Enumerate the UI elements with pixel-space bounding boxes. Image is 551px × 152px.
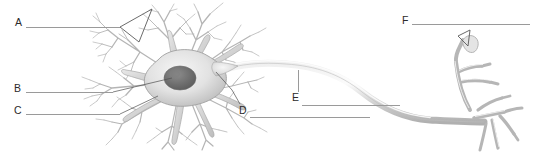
- leader-line-e-vertical: [298, 70, 299, 92]
- leader-line-b: [26, 92, 113, 93]
- label-letter-d: D: [239, 105, 247, 115]
- terminal-highlights: [455, 61, 505, 147]
- neuron-diagram: A B C D E F: [0, 0, 551, 152]
- nucleus: [164, 66, 196, 90]
- label-letter-a: A: [15, 17, 22, 27]
- axon-outline: [222, 63, 484, 122]
- label-letter-e: E: [292, 92, 299, 102]
- leader-line-a: [26, 27, 120, 28]
- leader-line-d: [250, 117, 370, 118]
- leader-line-c: [26, 114, 120, 115]
- nucleolus: [170, 71, 180, 78]
- label-letter-f: F: [402, 15, 409, 25]
- axon-terminals: [456, 36, 522, 150]
- leader-line-f: [412, 24, 530, 25]
- leader-line-e: [302, 105, 400, 106]
- axon: [222, 63, 484, 122]
- label-letter-c: C: [14, 105, 22, 115]
- label-letter-b: B: [14, 83, 21, 93]
- neuron-illustration: [0, 0, 551, 152]
